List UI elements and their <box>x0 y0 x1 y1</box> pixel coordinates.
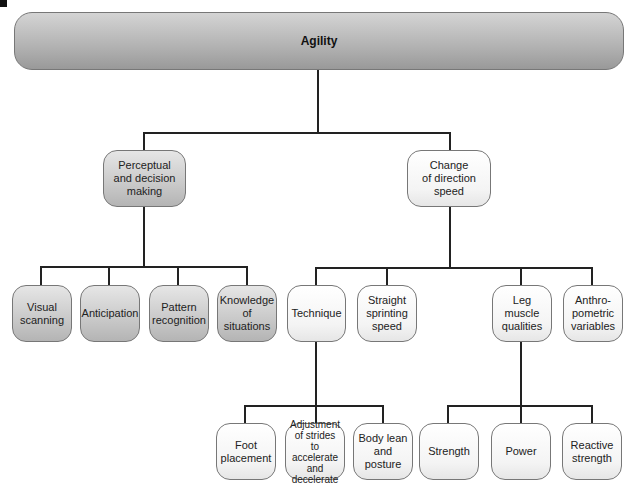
node-perceptual-decision-making: Perceptual and decision making <box>103 150 186 207</box>
node-label: Adjustment of strides to accelerate and … <box>288 419 342 485</box>
node-leg-muscle-qualities: Leg muscle qualities <box>492 285 552 342</box>
connector-perceptual-horizontal <box>40 266 248 268</box>
node-label: Straight sprinting speed <box>366 294 408 333</box>
node-label: Technique <box>291 307 341 320</box>
node-label: Anticipation <box>82 307 139 320</box>
connector-technique-down <box>315 342 317 407</box>
connector-foot-up <box>244 405 246 423</box>
node-label: Perceptual and decision making <box>114 159 176 198</box>
connector-technique-horizontal <box>244 405 384 407</box>
connector-technique-up <box>315 267 317 285</box>
connector-root-down <box>317 70 319 134</box>
node-label: Power <box>505 445 536 458</box>
node-technique: Technique <box>287 285 346 342</box>
node-label: Agility <box>301 34 338 48</box>
node-label: Knowledge of situations <box>220 294 274 333</box>
node-label: Change of direction speed <box>422 159 476 198</box>
connector-pattern-up <box>177 266 179 285</box>
node-pattern-recognition: Pattern recognition <box>149 285 209 342</box>
connector-power-up <box>520 405 522 423</box>
corner-mark <box>0 0 7 7</box>
connector-sprint-up <box>386 267 388 285</box>
node-reactive-strength: Reactive strength <box>562 423 622 480</box>
connector-leg-up <box>520 267 522 285</box>
connector-leg-down <box>520 342 522 407</box>
connector-reactive-up <box>591 405 593 423</box>
node-straight-sprinting-speed: Straight sprinting speed <box>357 285 417 342</box>
connector-strength-up <box>447 405 449 423</box>
connector-perceptual-down <box>143 207 145 268</box>
connector-visual-up <box>40 266 42 285</box>
node-visual-scanning: Visual scanning <box>12 285 72 342</box>
node-change-of-direction-speed: Change of direction speed <box>407 150 491 207</box>
connector-knowledge-up <box>246 266 248 285</box>
connector-level1-horizontal <box>143 132 451 134</box>
node-label: Visual scanning <box>20 301 64 327</box>
connector-cod-up <box>449 132 451 150</box>
node-label: Strength <box>428 445 470 458</box>
connector-cod-down <box>449 207 451 269</box>
node-anticipation: Anticipation <box>80 285 140 342</box>
node-anthropometric-variables: Anthro- pometric variables <box>563 285 623 342</box>
node-strength: Strength <box>419 423 479 480</box>
connector-anticipation-up <box>108 266 110 285</box>
node-knowledge-of-situations: Knowledge of situations <box>217 285 277 342</box>
connector-perceptual-up <box>143 132 145 150</box>
connector-cod-horizontal <box>315 267 593 269</box>
connector-bodylean-up <box>382 405 384 423</box>
node-label: Pattern recognition <box>152 301 206 327</box>
node-agility: Agility <box>14 12 624 70</box>
node-label: Anthro- pometric variables <box>571 294 615 333</box>
node-label: Reactive strength <box>571 439 614 465</box>
node-power: Power <box>491 423 551 480</box>
node-adjustment-of-strides: Adjustment of strides to accelerate and … <box>285 423 345 480</box>
connector-anthro-up <box>591 267 593 285</box>
node-body-lean-posture: Body lean and posture <box>353 423 413 480</box>
node-foot-placement: Foot placement <box>216 423 276 480</box>
node-label: Body lean and posture <box>356 432 410 471</box>
node-label: Leg muscle qualities <box>502 294 542 333</box>
node-label: Foot placement <box>221 439 272 465</box>
